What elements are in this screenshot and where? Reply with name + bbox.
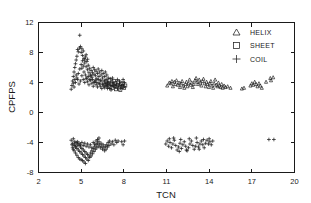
data-point bbox=[181, 79, 184, 82]
data-point bbox=[211, 139, 215, 143]
y-tick-label: 8 bbox=[29, 48, 33, 57]
data-point bbox=[174, 82, 177, 85]
y-tick-label: 0 bbox=[29, 108, 33, 117]
data-point bbox=[74, 62, 78, 66]
legend: HELIX SHEET COIL bbox=[233, 29, 276, 63]
data-point bbox=[200, 84, 203, 87]
x-tick-label: 11 bbox=[163, 177, 171, 186]
data-point bbox=[172, 136, 176, 140]
data-point bbox=[78, 33, 82, 37]
data-point bbox=[73, 66, 77, 70]
data-point bbox=[272, 76, 275, 79]
x-tick-label: 17 bbox=[248, 177, 256, 186]
data-points-layer bbox=[69, 33, 275, 165]
data-point bbox=[213, 82, 216, 85]
coil-plus-icon bbox=[233, 55, 241, 63]
series-coil bbox=[69, 33, 275, 165]
data-point bbox=[209, 79, 212, 82]
legend-entry-sheet: SHEET bbox=[234, 42, 276, 49]
data-point bbox=[123, 139, 127, 143]
data-point bbox=[167, 137, 171, 141]
data-point bbox=[74, 58, 78, 62]
scatter-plot-figure: 25811141720 -8-404812 TCN CPFPS HELIX SH… bbox=[0, 0, 311, 203]
data-point bbox=[72, 70, 76, 74]
data-point bbox=[108, 77, 112, 81]
helix-triangle-icon bbox=[233, 29, 240, 35]
legend-label-coil: COIL bbox=[250, 56, 268, 63]
data-point bbox=[78, 67, 82, 71]
y-tick-label: -4 bbox=[27, 138, 34, 147]
data-point bbox=[166, 84, 169, 87]
data-point bbox=[269, 79, 272, 82]
x-tick-label: 14 bbox=[205, 177, 213, 186]
data-point bbox=[80, 74, 84, 78]
data-point bbox=[84, 53, 88, 57]
data-point bbox=[272, 138, 276, 142]
y-tick-label: -8 bbox=[27, 168, 34, 177]
series-helix bbox=[166, 76, 275, 90]
data-point bbox=[242, 86, 245, 89]
data-point bbox=[226, 85, 229, 88]
x-tick-label: 5 bbox=[79, 177, 83, 186]
data-point bbox=[75, 54, 79, 58]
x-tick-label: 20 bbox=[290, 177, 298, 186]
legend-entry-helix: HELIX bbox=[233, 29, 272, 36]
data-point bbox=[202, 77, 205, 80]
data-point bbox=[197, 147, 201, 151]
data-point bbox=[76, 50, 80, 54]
data-point bbox=[220, 82, 223, 85]
data-point bbox=[195, 136, 199, 140]
y-tick-label: 4 bbox=[29, 78, 33, 87]
data-point bbox=[207, 85, 210, 88]
sheet-square-icon bbox=[234, 43, 240, 49]
data-point bbox=[179, 138, 183, 142]
data-point bbox=[214, 78, 217, 81]
data-point bbox=[175, 79, 178, 82]
data-point bbox=[265, 80, 268, 83]
data-point bbox=[260, 86, 263, 89]
data-point bbox=[185, 80, 188, 83]
data-point bbox=[212, 86, 215, 89]
data-point bbox=[86, 57, 90, 61]
data-point bbox=[170, 79, 173, 82]
legend-entry-coil: COIL bbox=[233, 55, 268, 63]
data-point bbox=[172, 138, 176, 142]
data-point bbox=[267, 138, 271, 142]
data-point bbox=[69, 87, 73, 91]
data-point bbox=[185, 148, 189, 152]
x-tick-label: 8 bbox=[122, 177, 126, 186]
data-point bbox=[183, 86, 186, 89]
legend-label-sheet: SHEET bbox=[250, 42, 275, 49]
x-axis-label: TCN bbox=[156, 189, 176, 200]
data-point bbox=[229, 86, 232, 89]
data-point bbox=[188, 78, 191, 81]
chart-canvas: 25811141720 -8-404812 TCN CPFPS HELIX SH… bbox=[0, 0, 311, 203]
x-tick-label: 2 bbox=[36, 177, 40, 186]
data-point bbox=[187, 137, 191, 141]
data-point bbox=[195, 76, 198, 79]
y-tick-label: 12 bbox=[25, 18, 33, 27]
y-axis-label: CPFPS bbox=[6, 81, 17, 113]
legend-label-helix: HELIX bbox=[250, 29, 272, 36]
